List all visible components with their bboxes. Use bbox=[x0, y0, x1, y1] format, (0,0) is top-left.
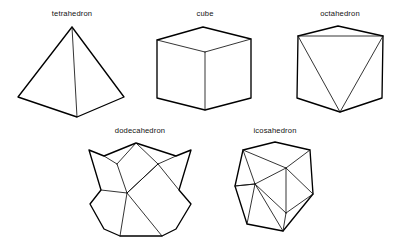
dodecahedron-inner-edge-3 bbox=[127, 164, 158, 193]
tetrahedron-outline bbox=[18, 27, 124, 117]
icosahedron-outline bbox=[235, 142, 313, 231]
icosahedron-inner-edge-12 bbox=[235, 184, 255, 186]
dodecahedron-inner-edge-7 bbox=[104, 156, 117, 164]
dodecahedron-label: dodecahedron bbox=[115, 126, 165, 135]
dodecahedron-inner-edge-2 bbox=[101, 190, 127, 193]
cube-inner-edge-0 bbox=[157, 40, 205, 52]
cube-label: cube bbox=[196, 9, 213, 18]
dodecahedron-outline bbox=[89, 143, 191, 236]
dodecahedron-inner-edge-4 bbox=[158, 164, 179, 190]
platonic-solids-figure: tetrahedroncubeoctahedrondodecahedronico… bbox=[0, 0, 401, 249]
icosahedron-inner-edge-11 bbox=[286, 168, 313, 194]
icosahedron-label: icosahedron bbox=[253, 126, 296, 135]
dodecahedron-inner-edge-0 bbox=[117, 143, 158, 164]
icosahedron-inner-edge-0 bbox=[243, 150, 286, 168]
cube-outline bbox=[157, 27, 251, 110]
solid-octahedron bbox=[297, 26, 383, 112]
icosahedron-inner-edge-6 bbox=[255, 184, 286, 213]
figure-canvas: tetrahedroncubeoctahedrondodecahedronico… bbox=[0, 0, 401, 249]
icosahedron-inner-edge-2 bbox=[243, 150, 255, 184]
solid-dodecahedron bbox=[89, 143, 191, 236]
solid-tetrahedron bbox=[18, 27, 124, 117]
icosahedron-inner-edge-3 bbox=[255, 168, 286, 184]
icosahedron-inner-edge-1 bbox=[286, 150, 310, 168]
dodecahedron-inner-edge-5 bbox=[120, 193, 127, 236]
octahedron-label: octahedron bbox=[320, 9, 360, 18]
dodecahedron-inner-edge-6 bbox=[127, 193, 162, 236]
solids-layer bbox=[18, 26, 383, 236]
octahedron-outline bbox=[297, 26, 383, 112]
tetrahedron-inner-edge-0 bbox=[72, 27, 77, 117]
dodecahedron-inner-edge-8 bbox=[158, 156, 176, 164]
tetrahedron-label: tetrahedron bbox=[52, 9, 93, 18]
solid-cube bbox=[157, 27, 251, 110]
cube-inner-edge-1 bbox=[205, 39, 251, 52]
solid-icosahedron bbox=[235, 142, 313, 231]
octahedron-inner-edge-2 bbox=[340, 36, 383, 112]
dodecahedron-inner-edge-1 bbox=[117, 164, 158, 193]
icosahedron-inner-edge-9 bbox=[255, 184, 283, 231]
icosahedron-inner-edge-10 bbox=[247, 184, 255, 224]
